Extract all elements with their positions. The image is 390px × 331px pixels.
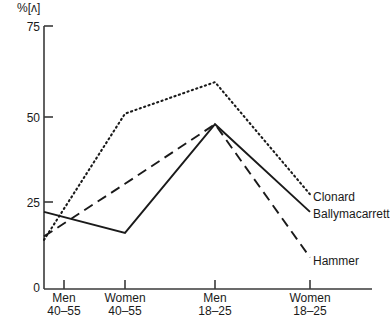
- x-tick-label-line2: 40–55: [79, 305, 171, 318]
- series-label-hammer: Hammer: [313, 254, 359, 268]
- x-tick-label-line2: 18–25: [264, 305, 356, 318]
- x-tick-label-women-40-55: Women 40–55: [79, 292, 171, 318]
- x-tick-label-line1: Women: [104, 291, 145, 305]
- series-line-clonard: [44, 82, 310, 240]
- series-label-ballymacarrett: Ballymacarrett: [313, 207, 390, 221]
- series-label-clonard: Clonard: [313, 190, 355, 204]
- series-line-hammer: [44, 124, 310, 257]
- x-tick-label-men-18-25: Men 18–25: [169, 292, 261, 318]
- x-tick-label-women-18-25: Women 18–25: [264, 292, 356, 318]
- x-tick-label-line2: 18–25: [169, 305, 261, 318]
- x-tick-label-line1: Men: [203, 291, 226, 305]
- x-tick-label-line1: Women: [289, 291, 330, 305]
- x-tick-label-line1: Men: [52, 291, 75, 305]
